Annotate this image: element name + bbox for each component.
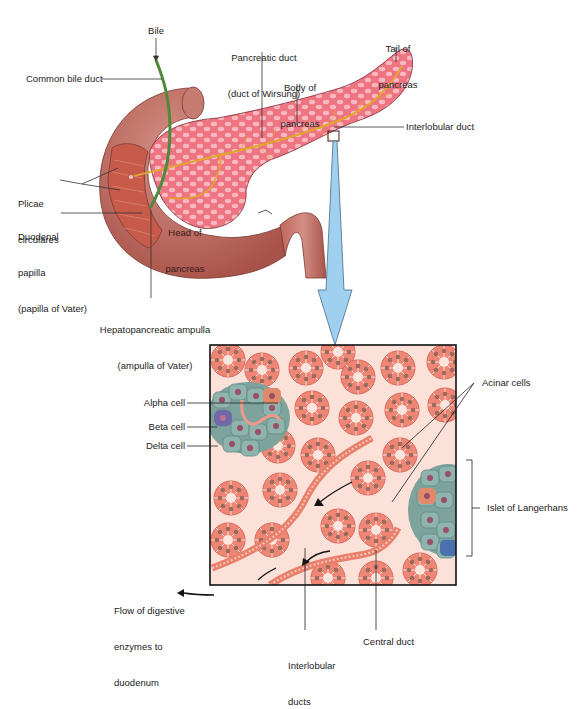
magnified-tissue bbox=[206, 335, 488, 595]
label-bile: Bile bbox=[140, 25, 172, 37]
label-body-of-pancreas: Body of pancreas bbox=[272, 58, 328, 142]
label-tail-of-pancreas: Tail of pancreas bbox=[370, 19, 426, 103]
label-common-bile-duct: Common bile duct bbox=[26, 73, 103, 85]
label-interlobular-duct: Interlobular duct bbox=[406, 121, 474, 133]
label-acinar-cells: Acinar cells bbox=[482, 377, 531, 389]
label-interlobular-ducts: Interlobular ducts bbox=[288, 636, 336, 709]
label-flow-of-digestive-enzymes: Flow of digestive enzymes to duodenum bbox=[114, 581, 185, 701]
label-beta-cell: Beta cell bbox=[110, 421, 185, 433]
label-central-duct: Central duct bbox=[363, 636, 414, 648]
flow-out-arrow bbox=[184, 593, 214, 595]
label-head-of-pancreas: Head of pancreas bbox=[160, 203, 210, 287]
label-duodenal-papilla: Duodenal papilla (papilla of Vater) bbox=[18, 207, 87, 327]
label-delta-cell: Delta cell bbox=[110, 440, 185, 452]
label-hepatopancreatic-ampulla: Hepatopancreatic ampulla (ampulla of Vat… bbox=[96, 300, 214, 384]
papilla-dot bbox=[129, 175, 134, 180]
label-islet-of-langerhans: Islet of Langerhans bbox=[487, 502, 568, 514]
label-alpha-cell: Alpha cell bbox=[110, 397, 185, 409]
